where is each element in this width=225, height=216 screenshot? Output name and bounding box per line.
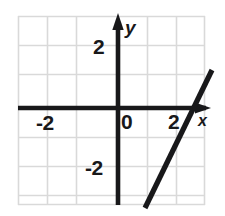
x-axis-tick-label-2: 2: [168, 111, 179, 132]
graph-figure: 2 y -2 0 2 x -2: [0, 0, 225, 216]
plotted-line: [145, 70, 212, 208]
x-axis-tick-label-neg2: -2: [36, 112, 54, 133]
coordinate-plane-svg: [0, 0, 225, 216]
y-axis-name-label: y: [125, 18, 136, 37]
y-axis-tick-label-2: 2: [93, 36, 104, 57]
origin-label: 0: [121, 111, 132, 132]
x-axis-name-label: x: [198, 113, 207, 129]
y-axis-tick-label-neg2: -2: [85, 157, 103, 178]
